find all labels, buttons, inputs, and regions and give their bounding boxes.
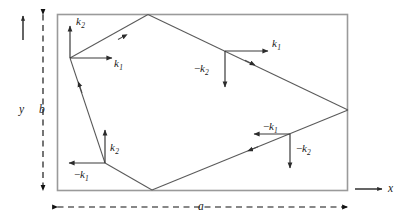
ray-arrow-left-upward [79,84,82,93]
label-minus-k2-top-right-subscript: 2 [205,68,209,77]
label-axis-y: y [19,104,24,116]
label-minus-k1-bottom-right-subscript: 1 [274,126,278,135]
label-minus-k2-bottom-right: −k2 [296,143,311,154]
ray-segment-left [70,58,105,163]
ray-direction-arrowheads [79,36,258,151]
vector-pair-bottom-right [254,134,290,168]
label-dimension-b: b [39,104,45,116]
ray-path-diagram [0,0,405,221]
label-k2-top-left-subscript: 2 [81,21,85,30]
ray-arrow-upper-right [245,60,253,64]
ray-arrow-upper-left [118,36,125,40]
label-minus-k1-bottom-left-subscript: 1 [85,174,89,183]
label-k2-bottom-left: k2 [110,142,119,153]
label-k1-top-right: k1 [272,38,281,49]
label-axis-x: x [388,183,393,195]
label-k2-bottom-left-subscript: 2 [115,147,119,156]
ray-path-quadrilateral [70,15,348,191]
label-dimension-a: a [198,201,204,213]
label-k1-top-right-subscript: 1 [277,43,281,52]
label-minus-k1-bottom-right: −k1 [263,121,278,132]
label-minus-k2-top-right: −k2 [194,63,209,74]
label-k2-top-left: k2 [76,16,85,27]
vector-pair-top-left [70,26,112,58]
figure-container: k2 k1 k1 −k2 k2 −k1 −k1 −k2 y x b a [0,0,405,221]
label-minus-k2-bottom-right-subscript: 2 [307,148,311,157]
label-k1-top-left-subscript: 1 [119,63,123,72]
ray-arrow-lower-right [250,147,258,150]
label-k1-top-left: k1 [114,58,123,69]
ray-segment-lower-left [105,163,152,190]
label-minus-k1-bottom-left: −k1 [74,169,89,180]
